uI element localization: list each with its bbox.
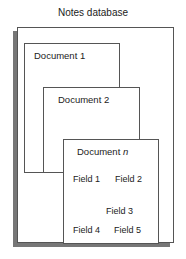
field-4: Field 4 [73,225,100,235]
document-n-label-italic: n [123,146,128,157]
diagram-title: Notes database [0,7,186,18]
field-5: Field 5 [114,225,141,235]
field-2: Field 2 [115,174,142,184]
field-1: Field 1 [73,174,100,184]
field-3: Field 3 [106,206,133,216]
document-n-label-prefix: Document [77,146,123,157]
document-2-label: Document 2 [58,94,109,105]
document-1-label: Document 1 [34,50,85,61]
document-n: Document n Field 1 Field 2 Field 3 Field… [63,139,159,244]
document-n-label: Document n [77,146,128,157]
